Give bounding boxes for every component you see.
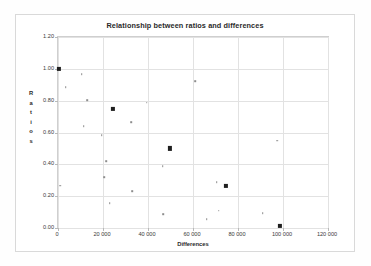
data-point bbox=[65, 86, 67, 88]
x-tick-label: 0 bbox=[55, 231, 58, 237]
x-tick-label: 120 000 bbox=[317, 231, 337, 237]
gridline-vertical bbox=[193, 37, 194, 228]
data-point bbox=[109, 202, 111, 204]
gridline-vertical bbox=[238, 37, 239, 228]
data-point bbox=[168, 146, 172, 150]
gridline-vertical bbox=[58, 37, 59, 228]
data-point bbox=[206, 218, 208, 220]
y-tick-label: 1.00 bbox=[24, 65, 54, 71]
data-point bbox=[131, 190, 133, 192]
data-point bbox=[59, 185, 61, 187]
data-point bbox=[278, 224, 282, 228]
data-point bbox=[277, 140, 279, 142]
y-tick-label: 1.20 bbox=[24, 33, 54, 39]
data-point bbox=[162, 165, 164, 167]
gridline-vertical bbox=[283, 37, 284, 228]
data-point bbox=[111, 107, 115, 111]
plot-area bbox=[57, 36, 329, 229]
scatter-chart: Relationship between ratios and differen… bbox=[0, 0, 371, 266]
x-tick-label: 20 000 bbox=[93, 231, 110, 237]
data-point bbox=[106, 160, 108, 162]
data-point bbox=[130, 122, 132, 124]
data-point bbox=[262, 213, 264, 215]
y-tick-label: 0.00 bbox=[24, 224, 54, 230]
data-point bbox=[57, 67, 61, 71]
data-point bbox=[101, 134, 103, 136]
gridline-vertical bbox=[148, 37, 149, 228]
y-tick-label: 0.60 bbox=[24, 129, 54, 135]
chart-frame: Relationship between ratios and differen… bbox=[15, 14, 355, 252]
x-tick-label: 60 000 bbox=[183, 231, 200, 237]
y-tick-label: 0.20 bbox=[24, 192, 54, 198]
data-point bbox=[83, 126, 85, 128]
x-tick-label: 80 000 bbox=[228, 231, 245, 237]
data-point bbox=[218, 210, 220, 212]
data-point bbox=[86, 100, 88, 102]
gridline-vertical bbox=[103, 37, 104, 228]
data-point bbox=[216, 181, 218, 183]
data-point bbox=[146, 102, 148, 104]
gridline-vertical bbox=[328, 37, 329, 228]
y-tick-label: 0.80 bbox=[24, 97, 54, 103]
x-axis-title: Differences bbox=[57, 241, 329, 247]
data-point bbox=[224, 184, 228, 188]
data-point bbox=[194, 80, 196, 82]
data-point bbox=[163, 214, 165, 216]
y-axis-tick-labels: 0.000.200.400.600.801.001.20 bbox=[21, 36, 54, 229]
x-tick-label: 40 000 bbox=[138, 231, 155, 237]
y-tick-label: 0.40 bbox=[24, 160, 54, 166]
chart-title: Relationship between ratios and differen… bbox=[16, 21, 354, 30]
x-tick-label: 100 000 bbox=[272, 231, 292, 237]
data-point bbox=[81, 74, 83, 76]
data-point bbox=[103, 176, 105, 178]
